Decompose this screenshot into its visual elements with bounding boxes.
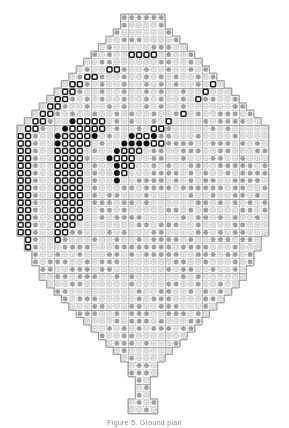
cross-stitch-grid-canvas <box>0 0 289 428</box>
pattern-chart: Figure 5. Ground plan <box>0 0 289 428</box>
figure-caption: Figure 5. Ground plan <box>0 418 289 428</box>
